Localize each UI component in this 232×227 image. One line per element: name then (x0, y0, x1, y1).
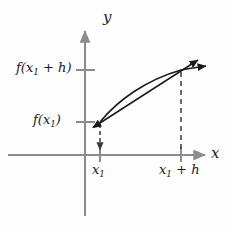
x-tick-label-x1-plus-h: x1 + h (159, 163, 200, 176)
x-tick-label-x1: x1 (92, 163, 105, 176)
y-axis-label: y (103, 10, 111, 25)
x-axis-label: x (211, 146, 219, 161)
y-tick-label-f-x1: f(x1) (33, 113, 61, 126)
y-tick-label-f-x1-plus-h: f(x1 + h) (16, 61, 71, 74)
secant-line (93, 60, 198, 128)
secant-line-figure: y x f(x1 + h) f(x1) x1 x1 + h (0, 0, 232, 227)
